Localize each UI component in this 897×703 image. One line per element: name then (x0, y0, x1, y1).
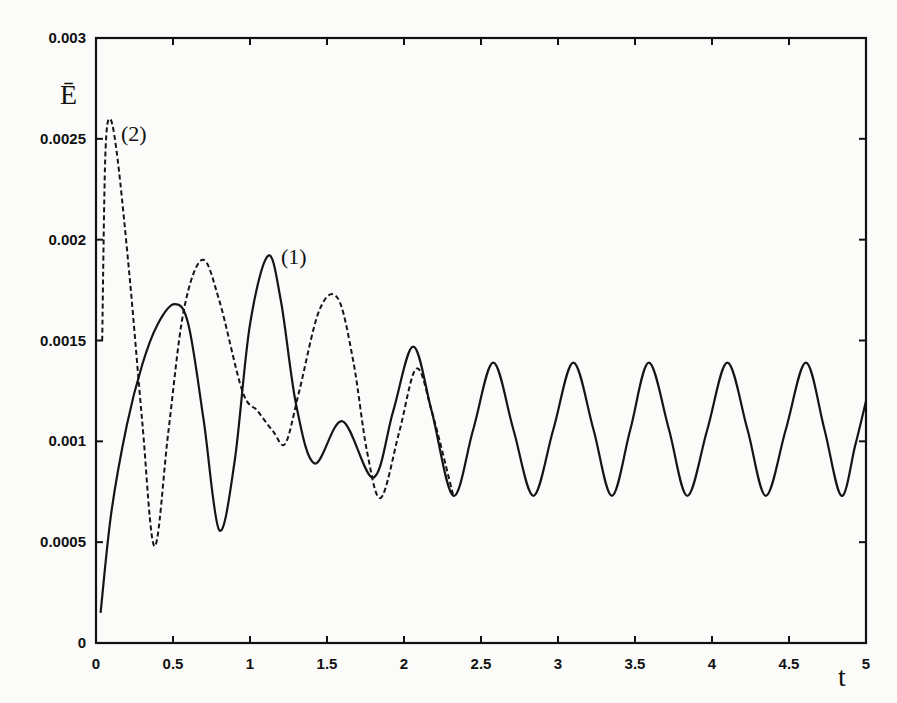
x-tick-label: 1.5 (317, 655, 338, 672)
y-tick-label: 0.002 (48, 231, 86, 248)
y-axis-title: Ē (60, 79, 77, 110)
curve-label-1: (1) (281, 244, 307, 269)
x-tick-label: 3.5 (625, 655, 646, 672)
axis-ticks (96, 38, 866, 643)
y-tick-label: 0.001 (48, 432, 86, 449)
curve-label-2: (2) (121, 121, 147, 146)
x-tick-label: 0.5 (163, 655, 184, 672)
line-chart: 00.511.522.533.544.55 00.00050.0010.0015… (0, 0, 897, 703)
x-tick-label: 4 (708, 655, 717, 672)
x-tick-label: 0 (92, 655, 100, 672)
x-tick-label: 3 (554, 655, 562, 672)
x-axis-title: t (838, 661, 846, 692)
x-tick-label: 5 (862, 655, 870, 672)
x-axis-tick-labels: 00.511.522.533.544.55 (92, 655, 870, 672)
y-tick-label: 0.003 (48, 29, 86, 46)
x-tick-label: 2.5 (471, 655, 492, 672)
y-tick-label: 0.0025 (40, 130, 86, 147)
y-tick-label: 0.0005 (40, 533, 86, 550)
x-tick-label: 2 (400, 655, 408, 672)
x-tick-label: 4.5 (779, 655, 800, 672)
y-tick-label: 0.0015 (40, 332, 86, 349)
series-1-solid-curve (101, 255, 866, 612)
plot-frame (96, 38, 866, 643)
y-axis-tick-labels: 00.00050.0010.00150.0020.00250.003 (40, 29, 86, 651)
x-tick-label: 1 (246, 655, 254, 672)
y-tick-label: 0 (78, 634, 86, 651)
